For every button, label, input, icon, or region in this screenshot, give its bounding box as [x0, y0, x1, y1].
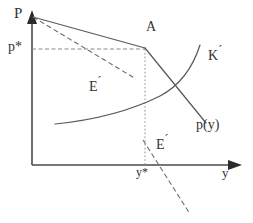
point-a-label: A: [146, 20, 156, 34]
marginal-cost-curve-k-prime: [55, 45, 200, 124]
e-prime-lower-label: E´: [156, 134, 169, 152]
y-axis-arrowhead-icon: [228, 160, 242, 170]
p-star-tick-label: p*: [8, 40, 22, 54]
e-prime-upper-mark: ´: [98, 74, 102, 88]
diagram-canvas: P y p* y* A K´ p(y) E´ E´: [0, 0, 253, 223]
k-prime-letter: K: [208, 48, 218, 63]
price-schedule-upper-segment: [33, 17, 145, 48]
y-star-tick-label: y*: [136, 166, 148, 178]
e-prime-upper-label: E´: [89, 76, 102, 94]
e-prime-lower-letter: E: [156, 137, 165, 152]
p-axis-arrowhead-icon: [27, 10, 37, 24]
p-axis-label: P: [14, 6, 22, 21]
k-prime-curve-label: K´: [208, 45, 222, 63]
price-function-label: p(y): [196, 118, 219, 132]
y-axis-label: y: [222, 166, 229, 179]
economics-diagram-svg: [0, 0, 253, 223]
marginal-revenue-upper-dashed-segment: [33, 17, 136, 79]
e-prime-upper-letter: E: [89, 79, 98, 94]
e-prime-lower-mark: ´: [165, 132, 169, 146]
k-prime-mark: ´: [218, 43, 222, 57]
